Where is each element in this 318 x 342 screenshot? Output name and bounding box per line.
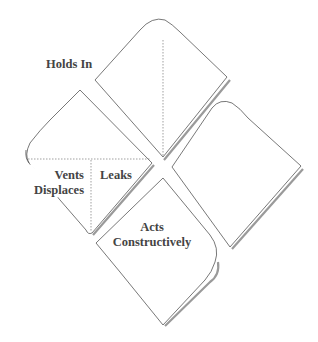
label-acts: Acts <box>140 220 164 234</box>
label-vents: Vents <box>55 168 85 182</box>
label-constructively: Constructively <box>113 235 192 249</box>
label-holds-in: Holds In <box>46 57 92 71</box>
label-leaks: Leaks <box>100 168 132 182</box>
label-displaces: Displaces <box>34 183 84 197</box>
diagram-canvas: Holds In Vents Displaces Leaks Acts Cons… <box>0 0 318 342</box>
